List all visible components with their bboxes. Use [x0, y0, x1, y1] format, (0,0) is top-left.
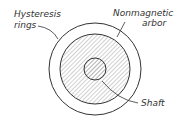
hysteresis-leader: [38, 26, 58, 39]
shaft: [84, 58, 106, 80]
label-shaft: Shaft: [141, 99, 165, 108]
label-arbor-1: Nonmagnetic: [113, 9, 173, 18]
label-arbor-2: arbor: [142, 19, 166, 28]
label-hysteresis-rings-1: Hysteresis: [14, 10, 61, 19]
label-hysteresis-rings-2: rings: [14, 21, 36, 30]
